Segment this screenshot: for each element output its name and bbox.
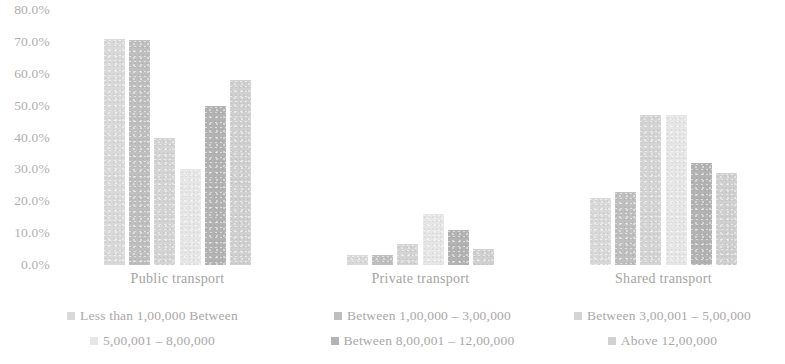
bar[interactable] [640,115,661,265]
category-label: Private transport [299,270,542,292]
y-axis-tick: 30.0% [0,162,50,175]
legend-item[interactable]: Less than 1,00,000 Between [0,308,305,324]
legend-row: Less than 1,00,000 BetweenBetween 1,00,0… [0,303,785,328]
bar[interactable] [230,80,251,265]
category-axis-labels: Public transportPrivate transportShared … [56,270,785,292]
legend-item[interactable]: Above 12,00,000 [540,333,785,349]
y-axis-tick: 50.0% [0,99,50,112]
bar[interactable] [104,39,125,265]
legend-row: 5,00,001 – 8,00,000Between 8,00,001 – 12… [0,328,785,353]
legend-label: Above 12,00,000 [621,333,717,349]
legend-item[interactable]: 5,00,001 – 8,00,000 [0,333,305,349]
legend-label: Between 3,00,001 – 5,00,000 [587,308,751,324]
bar[interactable] [590,198,611,265]
y-axis-tick: 10.0% [0,226,50,239]
bar-group [542,10,785,265]
legend-label: 5,00,001 – 8,00,000 [103,333,215,349]
legend-label: Between 8,00,001 – 12,00,000 [344,333,515,349]
bar[interactable] [666,115,687,265]
bar[interactable] [615,192,636,265]
bar[interactable] [154,138,175,266]
y-axis-tick: 20.0% [0,194,50,207]
legend-swatch-icon [67,312,75,320]
bar[interactable] [129,40,150,265]
bar-chart: 0.0%10.0%20.0%30.0%40.0%50.0%60.0%70.0%8… [0,0,785,364]
legend-swatch-icon [334,312,342,320]
bar[interactable] [205,106,226,265]
plot-area [56,10,785,265]
bar[interactable] [180,169,201,265]
legend-item[interactable]: Between 8,00,001 – 12,00,000 [305,333,540,349]
bar-group [299,10,542,265]
category-label: Public transport [56,270,299,292]
y-axis-tick: 40.0% [0,131,50,144]
chart-legend: Less than 1,00,000 BetweenBetween 1,00,0… [0,303,785,353]
bar[interactable] [473,249,494,265]
bar-groups [56,10,785,265]
legend-swatch-icon [574,312,582,320]
bar[interactable] [448,230,469,265]
bar[interactable] [423,214,444,265]
legend-item[interactable]: Between 1,00,000 – 3,00,000 [305,308,540,324]
legend-swatch-icon [608,337,616,345]
bar-group [56,10,299,265]
bar[interactable] [372,255,393,265]
legend-label: Between 1,00,000 – 3,00,000 [347,308,511,324]
legend-item[interactable]: Between 3,00,001 – 5,00,000 [540,308,785,324]
y-axis-tick: 60.0% [0,67,50,80]
y-axis: 0.0%10.0%20.0%30.0%40.0%50.0%60.0%70.0%8… [0,10,54,265]
bar[interactable] [716,173,737,265]
legend-swatch-icon [331,337,339,345]
bar[interactable] [347,255,368,265]
y-axis-tick: 0.0% [0,258,50,271]
category-label: Shared transport [542,270,785,292]
bar[interactable] [397,244,418,265]
y-axis-tick: 80.0% [0,3,50,16]
legend-swatch-icon [90,337,98,345]
legend-label: Less than 1,00,000 Between [80,308,238,324]
y-axis-tick: 70.0% [0,35,50,48]
bar[interactable] [691,163,712,265]
